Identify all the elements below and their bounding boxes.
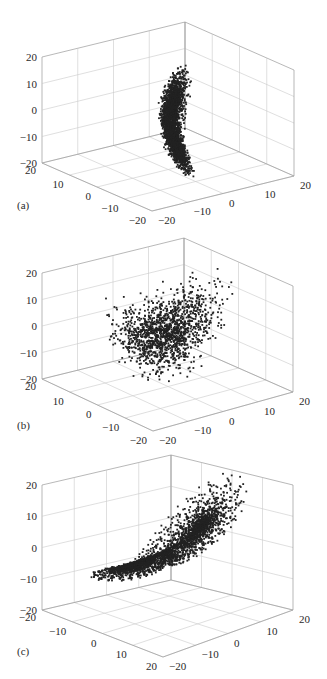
scatter-points xyxy=(91,473,248,582)
z-tick-label: −10 xyxy=(20,347,38,359)
right-axis-tick-label: 10 xyxy=(267,625,279,637)
z-tick-label: 20 xyxy=(26,479,38,491)
panel-c: 20100−10−20−20−1001020−20−1001020(c) xyxy=(0,449,327,679)
left-axis-tick-label: −20 xyxy=(129,214,147,225)
left-axis-tick-label: 0 xyxy=(86,190,92,202)
z-tick-label: 10 xyxy=(26,510,38,522)
right-axis-tick-label: 20 xyxy=(300,179,312,191)
z-tick-label: −10 xyxy=(20,131,38,143)
right-axis-tick-label: −20 xyxy=(158,214,176,225)
right-axis-tick-label: −10 xyxy=(194,205,212,217)
panel-label: (b) xyxy=(17,419,30,432)
right-axis-tick-label: −10 xyxy=(202,648,220,660)
right-axis-tick-label: 0 xyxy=(229,197,235,209)
left-axis-tick-label: 20 xyxy=(146,660,158,672)
panel-a: 20100−10−2020100−10−20−20−1001020(a) xyxy=(0,0,327,225)
left-axis-tick-label: 10 xyxy=(116,648,128,660)
z-tick-label: −10 xyxy=(20,573,38,585)
right-axis-tick-label: 0 xyxy=(234,637,240,649)
left-axis-tick-label: −10 xyxy=(101,202,119,214)
left-axis-tick-label: 0 xyxy=(91,637,97,649)
right-axis-tick-label: 20 xyxy=(299,613,311,625)
left-axis-tick-label: 20 xyxy=(25,164,37,176)
z-tick-label: 10 xyxy=(26,294,38,306)
left-axis-tick-label: −10 xyxy=(49,625,67,637)
panel-label: (c) xyxy=(17,645,30,658)
left-axis-tick-label: −20 xyxy=(19,611,37,623)
plot-b: 20100−10−2020100−10−20−20−1001020(b) xyxy=(0,225,327,449)
left-axis-tick-label: −10 xyxy=(102,421,120,433)
z-tick-label: 20 xyxy=(26,267,38,279)
right-axis-tick-label: −20 xyxy=(169,660,187,672)
plot-c: 20100−10−20−20−1001020−20−1001020(c) xyxy=(0,449,327,679)
scatter-points xyxy=(105,268,233,382)
z-tick-label: 0 xyxy=(32,104,38,116)
panel-label: (a) xyxy=(17,199,30,212)
left-axis-tick-label: 10 xyxy=(53,395,65,407)
right-axis-tick-label: 20 xyxy=(299,395,311,407)
panel-b: 20100−10−2020100−10−20−20−1001020(b) xyxy=(0,225,327,449)
right-axis-tick-label: 0 xyxy=(229,415,235,427)
left-axis-tick-label: 10 xyxy=(53,178,65,190)
left-axis-tick-label: −20 xyxy=(130,434,148,446)
right-axis-tick-label: 10 xyxy=(264,405,276,417)
right-axis-tick-label: −20 xyxy=(159,434,177,446)
right-axis-tick-label: −10 xyxy=(194,424,212,436)
z-tick-label: 10 xyxy=(26,78,38,90)
left-axis-tick-label: 20 xyxy=(25,380,37,392)
z-tick-label: 0 xyxy=(32,542,38,554)
plot-a: 20100−10−2020100−10−20−20−1001020(a) xyxy=(0,0,327,225)
scatter-points xyxy=(158,65,195,178)
left-axis-tick-label: 0 xyxy=(86,408,92,420)
z-tick-label: 0 xyxy=(32,320,38,332)
tick-labels: 20100−10−20−20−1001020−20−1001020 xyxy=(19,479,311,672)
z-tick-label: 20 xyxy=(26,51,38,63)
right-axis-tick-label: 10 xyxy=(265,188,277,200)
